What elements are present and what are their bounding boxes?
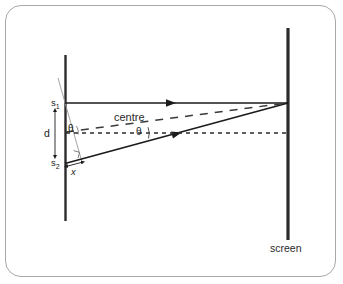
- figure-canvas: s1 s2 d θ θ x centre screen: [0, 0, 343, 284]
- slit-separation-label: d: [44, 128, 50, 139]
- slit-one-label: s1: [51, 98, 60, 110]
- slit-two-label: s2: [51, 158, 60, 170]
- wavefront-normal-construction-line: [58, 78, 82, 162]
- theta-label-at-slits: θ: [68, 124, 74, 134]
- path-difference-label: x: [71, 167, 76, 177]
- centre-ray-dashed-line: [66, 103, 287, 132]
- right-angle-mark-icon: [74, 151, 80, 159]
- screen-label: screen: [270, 243, 302, 254]
- theta-label-at-centre: θ: [136, 127, 142, 137]
- upper-ray-arrowhead-icon: [166, 99, 176, 106]
- centre-line-label: centre: [114, 112, 145, 123]
